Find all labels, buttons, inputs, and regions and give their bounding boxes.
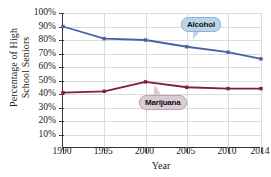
line-chart: Percentage of High School Seniors 10%20%…	[0, 0, 271, 177]
data-point-alcohol-1995	[103, 37, 106, 40]
x-axis-tick-label: 1995	[83, 146, 123, 156]
data-point-marijuana-1995	[103, 90, 106, 93]
y-axis-tick-label: 50%	[20, 75, 56, 85]
data-point-marijuana-2014	[259, 87, 262, 90]
series-layer	[63, 13, 261, 148]
x-axis-title: Year	[58, 160, 264, 171]
x-axis-tick-label: 2000	[125, 146, 165, 156]
y-axis-title-line1: Percentage of High	[8, 5, 20, 131]
plot-area	[62, 13, 260, 148]
data-point-alcohol-2010	[226, 50, 229, 53]
y-axis-tick-label: 100%	[20, 7, 56, 17]
series-line-marijuana	[63, 82, 261, 93]
y-axis-tick-label: 20%	[20, 115, 56, 125]
x-axis-tick-label: 2005	[166, 146, 206, 156]
y-axis-tick-label: 60%	[20, 61, 56, 71]
data-point-alcohol-2005	[185, 45, 188, 48]
data-point-marijuana-2005	[185, 86, 188, 89]
y-axis-tick-label: 90%	[20, 21, 56, 31]
y-axis-tick-label: 30%	[20, 102, 56, 112]
data-point-marijuana-2010	[226, 87, 229, 90]
series-line-alcohol	[63, 27, 261, 59]
y-axis-tick-label: 40%	[20, 88, 56, 98]
data-point-alcohol-1990	[61, 25, 64, 28]
data-point-marijuana-2000	[144, 80, 147, 83]
y-axis-tick-label: 80%	[20, 34, 56, 44]
y-axis-tick-label: 10%	[20, 129, 56, 139]
y-axis-tick-label: 70%	[20, 48, 56, 58]
data-point-alcohol-2000	[144, 38, 147, 41]
data-point-alcohol-2014	[259, 57, 262, 60]
alcohol-callout-label: Alcohol	[181, 17, 221, 32]
x-axis-tick-label: 1990	[42, 146, 82, 156]
marijuana-callout-label: Marijuana	[139, 95, 187, 110]
data-point-marijuana-1990	[61, 91, 64, 94]
gridline-v	[261, 13, 262, 148]
x-axis-tick-label: 2014	[240, 146, 271, 156]
